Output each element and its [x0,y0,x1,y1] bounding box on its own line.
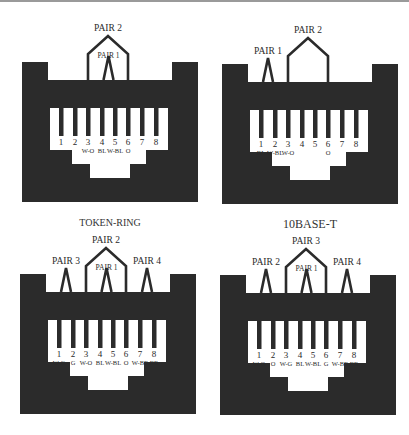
pin-contact [352,321,357,349]
wire-color-label: W-O [282,149,295,156]
wire-color-label: BL [296,360,304,367]
pin-contact [257,321,262,349]
pair-wire [263,58,273,82]
jack-token-ring: 123W-O4BL5W-BL6O78PAIR 2PAIR 1TOKEN-RING [22,23,198,228]
pin-number: 4 [298,350,303,360]
pair-label: PAIR 1 [97,51,119,60]
pin-contact [271,321,276,349]
pair-label: PAIR 1 [254,46,282,56]
pair-wire [288,38,328,82]
wire-color-label: O [126,147,131,154]
pin-contact [284,321,289,349]
pin-number: 7 [138,349,143,359]
pin-contact [273,110,278,138]
pin-contact [300,110,305,138]
wire-color-label: G [71,359,76,366]
pin-contact [73,108,78,136]
wire-color-label: W-G [280,360,293,367]
pin-number: 3 [284,350,289,360]
pin-number: 7 [340,139,345,149]
wire-color-label: W-BR [332,360,349,367]
pair-label: PAIR 2 [94,23,122,33]
pin-contact [140,108,145,136]
pair-wire [61,268,71,292]
pair-label: PAIR 4 [133,256,161,266]
wire-color-label: W-BR [132,359,149,366]
pin-number: 7 [140,137,145,147]
pin-number: 6 [126,137,131,147]
pin-contact [57,320,62,348]
wire-color-label: W-BL [107,147,123,154]
pin-contact [354,110,359,138]
wire-color-label: W-BL [305,360,321,367]
wire-color-label: BL [98,147,106,154]
pin-number: 4 [100,137,105,147]
jack-t568a-style: 1W-G2G3W-O4BL5W-BL6O7W-BR8BRPAIR 3PAIR 2… [20,235,196,414]
pair-wire [142,268,152,292]
pin-number: 1 [259,139,264,149]
pin-contact [311,321,316,349]
pin-number: 3 [86,137,91,147]
pin-contact [259,110,264,138]
pin-number: 3 [286,139,291,149]
pin-contact [154,108,159,136]
pin-number: 4 [300,139,305,149]
wire-color-label: BL [257,149,265,156]
pin-contact [340,110,345,138]
pin-contact [113,108,118,136]
pair-wire [342,269,352,293]
wire-color-label: O [124,359,129,366]
pair-label: PAIR 2 [92,235,120,245]
pair-label: PAIR 3 [292,236,320,246]
pin-contact [138,320,143,348]
pair-label: PAIR 2 [294,25,322,35]
pin-number: 8 [152,349,157,359]
pin-contact [84,320,89,348]
pin-number: 5 [311,350,316,360]
pin-number: 1 [59,137,64,147]
wire-color-label: BR [350,360,359,367]
wire-color-label: G [324,360,329,367]
pin-number: 2 [71,349,76,359]
pin-number: 7 [338,350,343,360]
pin-number: 2 [73,137,78,147]
rj45-wiring-diagrams: 123W-O4BL5W-BL6O78PAIR 2PAIR 1TOKEN-RING… [0,0,409,435]
pin-number: 6 [326,139,331,149]
wire-color-label: W-G [53,359,66,366]
pin-number: 5 [313,139,318,149]
pin-number: 6 [124,349,129,359]
pin-contact [324,321,329,349]
diagram-caption: 10BASE-T [283,217,338,231]
pin-contact [59,108,64,136]
pair-label: PAIR 3 [52,256,80,266]
wire-color-label: O [271,360,276,367]
pin-contact [326,110,331,138]
pin-number: 8 [354,139,359,149]
wire-color-label: W-BL [105,359,121,366]
pin-number: 1 [57,349,62,359]
pin-contact [298,321,303,349]
wire-color-label: BR [150,359,159,366]
pin-number: 3 [84,349,89,359]
wire-color-label: O [326,149,331,156]
pair-label: PAIR 2 [252,257,280,267]
diagram-caption: TOKEN-RING [79,217,140,228]
pair-wire [261,269,271,293]
wire-color-label: W-O [253,360,266,367]
pin-contact [98,320,103,348]
jack-t568b-style: 1W-O2O3W-G4BL5W-BL6G7W-BR8BRPAIR 2PAIR 3… [220,236,396,415]
pin-contact [100,108,105,136]
pin-contact [124,320,129,348]
pin-number: 1 [257,350,262,360]
pin-contact [313,110,318,138]
pair-label: PAIR 4 [333,257,361,267]
wire-color-label: W-O [82,147,95,154]
jack-10base-t: 1BL2W-BL3W-O456O78PAIR 1PAIR 210BASE-T [222,25,398,231]
wire-color-label: W-O [80,359,93,366]
pin-number: 6 [324,350,329,360]
pin-contact [286,110,291,138]
pin-number: 2 [271,350,276,360]
pin-contact [71,320,76,348]
pin-number: 8 [154,137,159,147]
pair-label: PAIR 1 [95,263,117,272]
